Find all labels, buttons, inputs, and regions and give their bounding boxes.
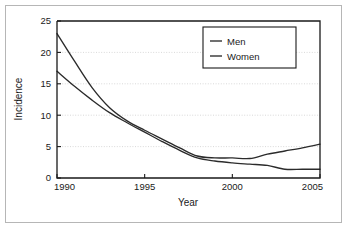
y-tick-label-5: 5 xyxy=(46,141,51,152)
legend-frame xyxy=(203,27,296,68)
y-tick-label-15: 15 xyxy=(40,78,51,89)
chart-legend: Men Women xyxy=(203,27,296,68)
x-tick-label-2005: 2005 xyxy=(302,181,323,192)
y-tick-labels-group: 0510152025 xyxy=(40,15,51,183)
x-axis-title: Year xyxy=(178,197,199,208)
x-tick-label-1990: 1990 xyxy=(54,181,75,192)
y-tick-label-0: 0 xyxy=(46,172,51,183)
line-chart: 0510152025 1990199520002005 Year Inciden… xyxy=(0,0,347,228)
figure-container: 0510152025 1990199520002005 Year Inciden… xyxy=(0,0,347,228)
x-tick-labels-group: 1990199520002005 xyxy=(54,181,323,192)
y-tick-label-10: 10 xyxy=(40,110,51,121)
x-tick-label-2000: 2000 xyxy=(222,181,243,192)
legend-label-women: Women xyxy=(227,51,260,62)
y-tick-label-20: 20 xyxy=(40,47,51,58)
legend-label-men: Men xyxy=(227,36,245,47)
x-tick-label-1995: 1995 xyxy=(134,181,155,192)
y-axis-title: Incidence xyxy=(13,77,24,120)
y-tick-label-25: 25 xyxy=(40,15,51,26)
